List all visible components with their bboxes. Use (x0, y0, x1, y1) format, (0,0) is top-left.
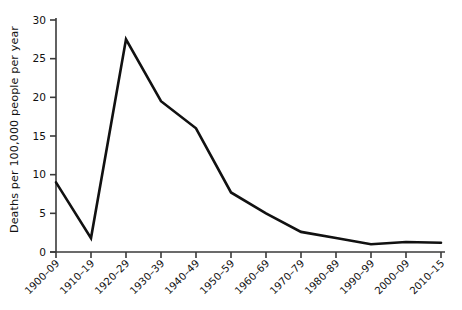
y-axis-tick-label: 0 (39, 246, 46, 258)
x-axis-tick-label: 1900–09 (23, 258, 62, 297)
y-axis: 051015202530 (33, 14, 56, 258)
data-series (56, 39, 441, 244)
x-axis-tick-label: 2010–15 (408, 258, 447, 297)
plot-area: 051015202530 1900–091910–191920–291930–3… (0, 0, 462, 310)
x-axis-tick-label: 1930–39 (128, 258, 167, 297)
x-axis-tick-label: 1910–19 (58, 258, 97, 297)
y-axis-tick-label: 10 (33, 168, 47, 180)
x-axis-tick-label: 1970–79 (268, 258, 307, 297)
series-line (56, 39, 441, 244)
y-axis-tick-label: 15 (33, 130, 46, 142)
y-axis-tick-label: 20 (33, 91, 47, 103)
x-axis-tick-label: 1920–29 (93, 258, 132, 297)
line-chart: Deaths per 100,000 people per year 05101… (0, 0, 462, 310)
x-axis-tick-label: 1960–69 (233, 258, 272, 297)
x-axis-tick-label: 1980–89 (303, 258, 342, 297)
y-axis-tick-label: 25 (33, 52, 46, 64)
x-axis-tick-label: 1940–49 (163, 258, 202, 297)
x-axis-tick-label: 2000–09 (373, 258, 412, 297)
x-axis: 1900–091910–191920–291930–391940–491950–… (23, 252, 447, 297)
x-axis-tick-label: 1950–59 (198, 258, 237, 297)
y-axis-tick-label: 30 (33, 14, 47, 26)
y-axis-tick-label: 5 (39, 207, 46, 219)
x-axis-tick-label: 1990–99 (338, 258, 377, 297)
